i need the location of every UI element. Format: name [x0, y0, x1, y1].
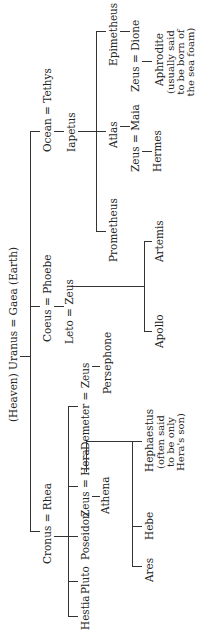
epimetheus: Epimetheus	[108, 3, 119, 66]
leto-zeus: Leto = Zeus	[64, 279, 75, 344]
hebe-drop	[132, 526, 142, 527]
demeter-drop	[68, 406, 78, 407]
cronus-drop	[30, 531, 40, 532]
prometheus-drop	[96, 231, 106, 232]
uranus-label: (Heaven) Uranus	[7, 331, 19, 422]
hera-stem-h	[86, 442, 87, 472]
aphrodite: Aphrodite	[154, 33, 165, 86]
persephone: Persephone	[102, 332, 113, 394]
zeus-maia: Zeus = Maia	[130, 104, 141, 172]
persephone-drop	[92, 366, 100, 367]
coeus-phoebe: Coeus = Phoebe	[42, 255, 53, 343]
poseidon: Poseidon	[80, 512, 91, 560]
demeter-zeus: Demeter = Zeus	[80, 363, 91, 450]
pluto-drop	[68, 581, 78, 582]
greek-gods-family-tree: (Heaven) Uranus = Gaea (Earth) Cronus = …	[0, 0, 215, 632]
equals-sign: =	[7, 319, 19, 328]
leto-children-bar	[144, 242, 145, 332]
artemis-drop	[144, 241, 152, 242]
apollo-drop	[144, 331, 152, 332]
hephaestus-note: (often said to be only Hera's son)	[156, 410, 186, 474]
cronus-rhea: Cronus = Rhea	[42, 483, 53, 564]
ocean-drop	[30, 131, 40, 132]
ocean-tethys: Ocean = Tethys	[42, 68, 53, 152]
gen1-bar	[30, 132, 31, 532]
hephaestus-drop	[132, 441, 142, 442]
cronus-children-bar	[68, 407, 69, 617]
cronus-stem	[54, 536, 68, 537]
note-line: the sea foam)	[186, 24, 196, 100]
hera-children-bar	[132, 442, 133, 567]
hebe: Hebe	[144, 512, 155, 540]
hestia-drop	[68, 616, 78, 617]
aphrodite-note: (usually said to be born of the sea foam…	[166, 24, 196, 100]
hera-stem-v	[86, 441, 132, 442]
pluto: Pluto	[80, 566, 91, 594]
iapetus-drop	[54, 131, 64, 132]
poseidon-drop	[68, 536, 78, 537]
ares: Ares	[144, 558, 155, 582]
atlas: Atlas	[108, 121, 119, 148]
zeus-dione: Zeus = Dione	[130, 20, 141, 92]
athena: Athena	[100, 476, 111, 514]
hermes: Hermes	[152, 130, 163, 172]
prometheus: Prometheus	[108, 198, 119, 262]
gaea-label: Gaea (Earth)	[7, 247, 19, 316]
hephaestus: Hephaestus	[144, 409, 155, 472]
iapetus: Iapetus	[66, 112, 77, 152]
coeus-drop	[30, 306, 40, 307]
note-line: Hera's son)	[176, 410, 186, 474]
leto-stem-v	[72, 286, 144, 287]
apollo: Apollo	[154, 314, 165, 348]
root-uranus-gaea: (Heaven) Uranus = Gaea (Earth)	[8, 247, 19, 422]
ares-drop	[132, 566, 142, 567]
artemis: Artemis	[154, 220, 165, 262]
iapetus-stem	[78, 131, 96, 132]
epimetheus-drop	[96, 31, 106, 32]
atlas-drop	[96, 131, 106, 132]
hestia: Hestia	[80, 595, 91, 630]
root-stem	[20, 356, 30, 357]
aphrodite-drop	[142, 61, 152, 62]
iapetus-children-bar	[96, 32, 97, 232]
zeus-drop	[68, 486, 78, 487]
